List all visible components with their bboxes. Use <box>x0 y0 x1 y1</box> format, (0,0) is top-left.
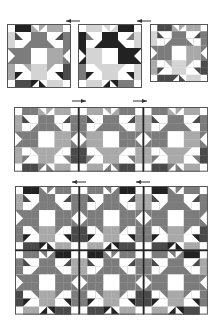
step-1-individual-blocks-panel-2 <box>78 24 142 88</box>
quilt-block-graphic <box>14 107 208 172</box>
step-1-individual-blocks-panel-1 <box>7 24 71 88</box>
quilt-block-graphic <box>7 24 71 88</box>
step-2-joined-row-panel-1 <box>14 107 208 172</box>
pressing-arrow-left-icon <box>136 180 150 184</box>
quilt-block-graphic <box>78 24 142 88</box>
quilt-block-graphic <box>15 186 208 315</box>
pressing-arrow-left-icon <box>137 19 151 23</box>
quilt-block-graphic <box>150 24 208 82</box>
pressing-arrow-left-icon <box>66 19 80 23</box>
step-3-joined-rows-panel-1 <box>15 186 208 315</box>
pressing-arrow-right-icon <box>72 99 86 103</box>
pressing-arrow-right-icon <box>133 99 147 103</box>
pressing-arrow-left-icon <box>72 180 86 184</box>
step-1-individual-blocks-panel-3 <box>150 24 208 82</box>
